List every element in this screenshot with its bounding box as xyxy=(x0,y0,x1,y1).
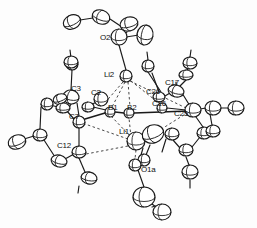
bond xyxy=(115,112,124,113)
thermal-ellipsoid xyxy=(135,24,154,46)
thermal-ellipsoid xyxy=(182,165,198,179)
atom-label-c12: C12 xyxy=(57,142,71,150)
atom-label-b2: B2 xyxy=(127,104,136,112)
atom-label-li1: Li1 xyxy=(119,128,129,136)
thermal-ellipsoid xyxy=(129,159,141,171)
thermal-ellipsoid xyxy=(205,101,221,115)
ortep-structure-drawing xyxy=(0,0,257,228)
atom-label-o2: O2 xyxy=(100,34,110,42)
bond xyxy=(147,52,148,60)
thermal-ellipsoid xyxy=(183,57,197,69)
thermal-ellipsoid xyxy=(142,60,154,72)
atom-label-c16: C16 xyxy=(152,100,166,108)
bond xyxy=(173,140,180,148)
thermal-ellipsoid xyxy=(228,101,244,115)
dashed-bond xyxy=(86,146,128,154)
atom-label-c26: C26 xyxy=(146,88,160,96)
bond xyxy=(79,158,85,172)
bond xyxy=(78,186,79,193)
bond xyxy=(85,113,105,119)
bond xyxy=(190,50,191,57)
bond xyxy=(146,145,150,155)
thermal-ellipsoid xyxy=(120,70,132,82)
bond xyxy=(80,18,93,20)
ortep-figure: O2Li2C3C2C17C26C16B1B2C7C25Li1C12O1a xyxy=(0,0,257,228)
thermal-ellipsoid xyxy=(179,70,193,80)
thermal-ellipsoid xyxy=(61,12,83,32)
atom-label-o1a: O1a xyxy=(141,166,156,174)
thermal-ellipsoid xyxy=(64,56,78,68)
atom-label-c3: C3 xyxy=(71,85,81,93)
bond xyxy=(192,137,200,147)
thermal-ellipsoid-layer xyxy=(6,7,244,220)
atom-label-b1: B1 xyxy=(108,104,117,112)
atom-label-c2: C2 xyxy=(91,89,101,97)
thermal-ellipsoid xyxy=(153,204,171,220)
atom-label-c25: C25 xyxy=(174,110,188,118)
thermal-ellipsoid xyxy=(33,129,47,141)
thermal-ellipsoid xyxy=(50,153,69,169)
thermal-ellipsoid xyxy=(179,144,193,156)
bond xyxy=(210,114,212,125)
bond xyxy=(186,157,189,165)
dashed-bond xyxy=(135,150,136,159)
thermal-ellipsoid xyxy=(111,29,127,45)
thermal-ellipsoid xyxy=(90,7,112,26)
bond xyxy=(40,107,41,129)
thermal-ellipsoid xyxy=(80,171,98,186)
thermal-ellipsoid xyxy=(82,102,94,112)
thermal-ellipsoid xyxy=(72,146,86,158)
atom-label-li2: Li2 xyxy=(104,71,114,79)
thermal-ellipsoid xyxy=(133,187,155,207)
bond xyxy=(196,117,203,127)
bond xyxy=(119,45,126,70)
thermal-ellipsoid xyxy=(206,125,220,137)
thermal-ellipsoid xyxy=(6,132,28,151)
thermal-ellipsoid xyxy=(56,103,70,113)
atom-label-c7: C7 xyxy=(69,113,79,121)
atom-label-c17: C17 xyxy=(165,79,179,87)
bond xyxy=(93,107,106,110)
thermal-ellipsoid xyxy=(165,128,179,140)
thermal-ellipsoid xyxy=(41,98,53,110)
bond xyxy=(162,139,166,152)
bond xyxy=(44,140,55,157)
